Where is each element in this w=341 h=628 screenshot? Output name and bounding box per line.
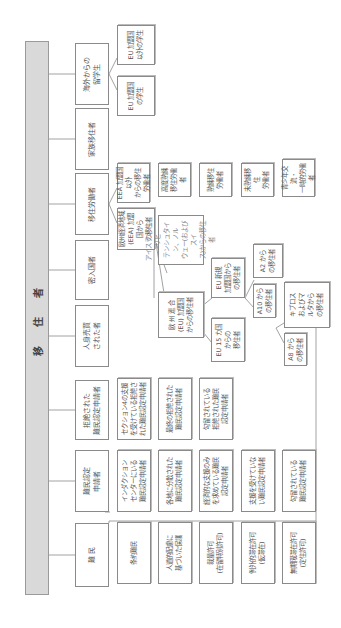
efta-migrant: アイスランド、リヒ テンシュタイン、ノル ウェー(およびスイ ス)からの移住者 (158, 215, 204, 265)
refugee-exceptional: 例外的滞在許可 (仮滞在) (241, 522, 275, 584)
asylum-induction: インダクション センターにいる 難民認定申請者 (117, 450, 151, 512)
eu-new-member-migrant: EU 新規 加盟国から の移住者 (211, 258, 245, 298)
cyprus-malta-migrant: キプロス およびマ ルタから の移住者 (284, 282, 330, 328)
refugee-discretionary: 裁量許可 (在留特別許可) (199, 522, 233, 584)
refused-final: 最終の拒絶された 難民認定申請者 (158, 378, 192, 440)
skilled-worker: 熟練移住 労働者 (199, 163, 232, 197)
title-bar: 移 住 者 (25, 41, 49, 595)
non-eea-worker: EEA 加盟国以外 からの移住労働者 (117, 163, 150, 203)
asylum-detained: 勾留されている 難民認定申請者 (282, 450, 316, 512)
refused-section4: セクション4の支援 を受けている拒絶さ れた難民認定申請者 (117, 378, 151, 440)
eu-student: EU 加盟国 の学生 (117, 76, 155, 116)
non-eu-student: EU 加盟国 以外の学生 (117, 25, 155, 65)
youth-temporary-worker: 青少年交流・ 一時的労働者 (282, 159, 315, 197)
category-refused-asylum-seeker: 拒絶された 難民認定申請者 (75, 380, 109, 440)
asylum-dispersed: 各地に分散された 難民認定申請者 (158, 450, 192, 512)
eu-migrant: 欧 州 連 合 (EU) 加盟国 からの移住者 (158, 292, 204, 338)
category-refugee: 難 民 (75, 523, 109, 587)
refused-detained: 勾留されている 拒絶された難民 認定申請者 (199, 378, 233, 440)
a8-migrant: A8 から の移住者 (284, 333, 307, 366)
migrant-classification-diagram: 移 住 者 難 民 難民認定 申請者 拒絶された 難民認定申請者 人身売買 され… (0, 0, 341, 628)
refugee-convention: 条約難民 (117, 522, 151, 584)
asylum-subsistence: 経済的な支援のみ を求めている難民 認定申請者 (199, 450, 233, 512)
highly-skilled-worker: 高度熟練 移住労働者 (158, 163, 191, 197)
category-family-migrant: 家族移住者 (75, 108, 109, 170)
category-smuggled-person: 密入国者 (75, 240, 109, 300)
refugee-indefinite: 無期限滞在許可 (定住許可) (282, 522, 316, 584)
eu15-migrant: EU 15 カ国 からの 移住者 (211, 318, 245, 362)
category-trafficked-person: 人身売買 された者 (75, 305, 109, 367)
a2-migrant: A2 から の移住者 (253, 244, 283, 278)
category-international-student: 海外からの 留学生 (75, 43, 109, 105)
refugee-humanitarian: 人道的配慮に 基づいた保護 (158, 522, 192, 584)
category-migrant-worker: 移住労働者 (75, 173, 109, 235)
asylum-unsupported: 支援を受けていな い難民認定申請者 (241, 450, 275, 512)
category-asylum-seeker: 難民認定 申請者 (75, 450, 109, 512)
a10-migrant: A10 から の移住者 (253, 284, 276, 318)
low-skilled-worker: 未熟練移住 労働者 (241, 163, 274, 197)
